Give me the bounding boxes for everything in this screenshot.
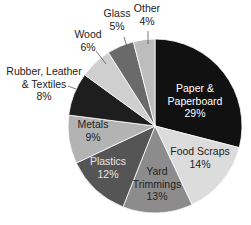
leader-line xyxy=(68,86,76,89)
slice-label: Other4% xyxy=(134,2,161,27)
pie-chart: Paper &Paperboard29%Food Scraps14%YardTr… xyxy=(0,0,251,225)
slice-label: Rubber, Leather& Textiles8% xyxy=(6,65,82,102)
slice-label: Glass5% xyxy=(104,7,131,32)
slice-label: Wood6% xyxy=(74,28,101,53)
